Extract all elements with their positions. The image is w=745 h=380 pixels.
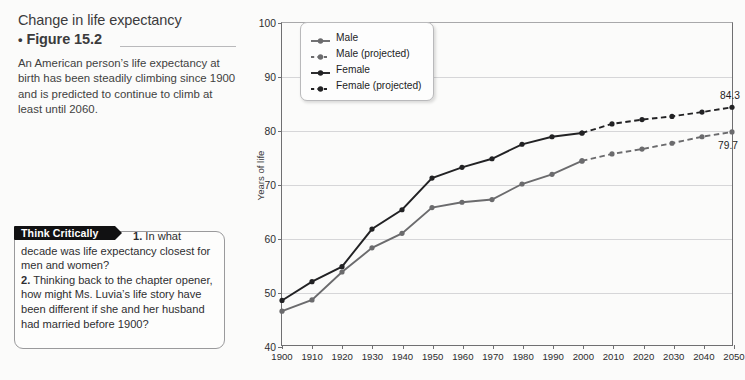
data-point <box>399 231 404 236</box>
y-tick-label: 100 <box>259 18 276 29</box>
data-point <box>489 156 494 161</box>
data-point <box>549 134 554 139</box>
data-point <box>399 207 404 212</box>
legend-item: Female <box>310 61 422 77</box>
figure-caption: An American person’s life expectancy at … <box>18 56 236 117</box>
legend-label: Female (projected) <box>336 80 422 91</box>
question-2-text: Thinking back to the chapter opener, how… <box>21 274 213 330</box>
x-tick-label: 1980 <box>512 351 533 362</box>
x-tick-mark <box>734 345 735 349</box>
x-tick-mark <box>342 345 343 349</box>
legend-label: Male <box>336 32 358 43</box>
legend-marker-icon <box>310 32 331 42</box>
legend-marker-icon <box>310 80 331 90</box>
x-tick-mark <box>403 345 404 349</box>
data-point <box>339 269 344 274</box>
x-tick-mark <box>493 345 494 349</box>
data-point <box>489 197 494 202</box>
data-point <box>309 297 314 302</box>
question-2-number: 2. <box>21 274 30 286</box>
bullet-icon: • <box>18 32 22 47</box>
data-point <box>429 205 434 210</box>
x-tick-label: 1960 <box>452 351 473 362</box>
x-tick-mark <box>433 345 434 349</box>
data-point <box>729 129 734 134</box>
data-point <box>279 298 284 303</box>
page-title: Change in life expectancy • Figure 15.2 <box>18 12 236 48</box>
legend-item: Male <box>310 29 422 45</box>
y-tick-label: 80 <box>265 126 276 137</box>
x-tick-label: 2000 <box>573 351 594 362</box>
data-point <box>519 181 524 186</box>
question-1: 1. In what decade was life expectancy cl… <box>21 229 220 273</box>
x-tick-label: 1920 <box>332 351 353 362</box>
x-tick-label: 1900 <box>271 351 292 362</box>
x-tick-mark <box>372 345 373 349</box>
data-point <box>279 309 284 314</box>
x-tick-label: 1990 <box>543 351 564 362</box>
data-point <box>519 142 524 147</box>
data-point <box>669 141 674 146</box>
data-point <box>699 134 704 139</box>
data-point <box>579 130 584 135</box>
x-tick-label: 1970 <box>482 351 503 362</box>
series-line <box>282 133 582 300</box>
x-tick-label: 2020 <box>633 351 654 362</box>
legend-marker-icon <box>310 48 331 58</box>
data-point <box>369 245 374 250</box>
data-point <box>609 151 614 156</box>
endpoint-value-label: 79.7 <box>718 139 738 150</box>
x-tick-mark <box>704 345 705 349</box>
y-tick-label: 50 <box>265 288 276 299</box>
y-tick-label: 90 <box>265 72 276 83</box>
chart-legend: MaleMale (projected)FemaleFemale (projec… <box>300 22 434 101</box>
y-tick-label: 70 <box>265 180 276 191</box>
data-point <box>669 114 674 119</box>
question-2: 2. Thinking back to the chapter opener, … <box>21 273 220 331</box>
data-point <box>579 158 584 163</box>
question-1-text: In what decade was life expectancy close… <box>21 230 210 271</box>
figure-title-line1: Change in life expectancy <box>18 12 182 28</box>
legend-label: Female <box>336 64 370 75</box>
data-point <box>639 117 644 122</box>
legend-item: Female (projected) <box>310 77 422 93</box>
legend-marker-icon <box>310 64 331 74</box>
legend-label: Male (projected) <box>336 48 410 59</box>
data-point <box>369 226 374 231</box>
x-tick-mark <box>583 345 584 349</box>
series-line <box>582 107 732 133</box>
x-tick-label: 1930 <box>362 351 383 362</box>
x-tick-mark <box>644 345 645 349</box>
data-point <box>729 105 734 110</box>
endpoint-value-label: 84.3 <box>720 89 740 100</box>
x-tick-mark <box>312 345 313 349</box>
figure-number: Figure 15.2 <box>26 31 101 47</box>
x-tick-label: 2050 <box>723 351 744 362</box>
data-point <box>549 172 554 177</box>
data-point <box>639 147 644 152</box>
x-tick-label: 1950 <box>422 351 443 362</box>
x-tick-label: 1910 <box>301 351 322 362</box>
x-tick-mark <box>674 345 675 349</box>
x-tick-label: 2040 <box>693 351 714 362</box>
series-line <box>582 132 732 161</box>
y-axis-title: Years of life <box>255 151 266 201</box>
series-line <box>282 161 582 311</box>
think-critically-questions: 1. In what decade was life expectancy cl… <box>21 229 220 331</box>
y-tick-label: 60 <box>265 234 276 245</box>
title-divider <box>120 46 236 47</box>
data-point <box>429 176 434 181</box>
x-tick-mark <box>553 345 554 349</box>
x-tick-mark <box>523 345 524 349</box>
life-expectancy-chart: Years of life 405060708090100 1900191019… <box>252 0 726 380</box>
x-tick-label: 1940 <box>392 351 413 362</box>
x-tick-mark <box>613 345 614 349</box>
x-tick-mark <box>282 345 283 349</box>
x-tick-label: 2010 <box>603 351 624 362</box>
x-tick-mark <box>463 345 464 349</box>
data-point <box>699 110 704 115</box>
figure-text-column: Change in life expectancy • Figure 15.2 … <box>0 0 250 380</box>
data-point <box>459 200 464 205</box>
data-point <box>309 279 314 284</box>
data-point <box>339 264 344 269</box>
